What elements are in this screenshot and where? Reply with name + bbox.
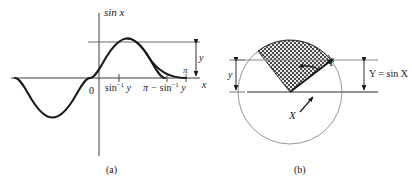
panel-a-tick-pi-sup: −1 (171, 81, 178, 88)
panel-a-pi-label: π (183, 66, 188, 75)
panel-a-caption: (a) (106, 165, 117, 175)
panel-a-tick-asin-fn: sin (105, 82, 117, 93)
figure-container: sin x x 0 π y sin−1 y π − sin−1 y y Y = … (0, 0, 412, 191)
panel-a-x-axis-label: x (202, 80, 206, 90)
panel-a-origin-label: 0 (89, 86, 94, 96)
panel-b-angle-pointer-arrow (300, 97, 313, 112)
panel-b-angle-label: X (289, 110, 296, 121)
panel-a-tick-pi-fn: sin (160, 82, 172, 93)
panel-a-tick-pi-prefix: π − (143, 82, 160, 93)
panel-a-tick-asin-arg: y (126, 82, 130, 93)
figure-svg (0, 0, 412, 191)
panel-b-shaded-sector (258, 40, 331, 92)
panel-b-Y-equation-label: Y = sin X (369, 69, 408, 79)
panel-b-caption: (b) (294, 165, 306, 175)
panel-a-tick-label-pi-minus-asin: π − sin−1 y (143, 82, 186, 93)
panel-a-tick-asin-sup: −1 (117, 81, 124, 88)
panel-a-y-bracket-label: y (199, 53, 203, 63)
panel-a-tick-pi-arg: y (181, 82, 185, 93)
panel-b-y-bracket-label: y (228, 70, 232, 80)
panel-b-radius-label: 1 (329, 58, 334, 68)
panel-b-graph (229, 40, 378, 144)
panel-a-y-axis-label: sin x (104, 7, 124, 18)
panel-a-tick-label-asin: sin−1 y (105, 82, 131, 93)
